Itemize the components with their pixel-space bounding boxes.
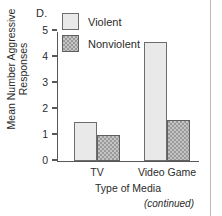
legend-item-nonviolent: Nonviolent	[62, 34, 140, 53]
panel-letter-label: D.	[36, 7, 47, 19]
continued-note: (continued)	[144, 198, 194, 209]
y-tick-label: 3	[42, 76, 48, 88]
y-tick-label: 5	[42, 24, 48, 36]
bar-tv-violent	[74, 122, 97, 161]
chart-legend: Violent Nonviolent	[62, 12, 140, 56]
y-tick-label: 2	[42, 102, 48, 114]
y-tick-label: 4	[42, 50, 48, 62]
legend-swatch-nonviolent-icon	[62, 35, 79, 52]
page-edge-rule	[210, 0, 211, 216]
bar-video-game-violent	[144, 42, 167, 160]
legend-label-violent: Violent	[88, 16, 121, 28]
y-tick-3: 3	[52, 81, 57, 82]
y-tick-label: 0	[42, 154, 48, 166]
legend-swatch-violent-icon	[62, 13, 79, 30]
legend-item-violent: Violent	[62, 12, 140, 31]
bar-tv-nonviolent	[97, 135, 120, 161]
y-tick-1: 1	[52, 133, 57, 134]
y-axis-title: Mean Number Aggressive Responses	[1, 0, 35, 139]
y-tick-2: 2	[52, 107, 57, 108]
x-axis-title: Type of Media	[57, 182, 199, 194]
legend-label-nonviolent: Nonviolent	[88, 38, 140, 50]
y-axis-title-line-2: Responses	[18, 43, 30, 96]
y-axis-line	[57, 32, 58, 162]
y-tick-0: 0	[52, 159, 57, 160]
bar-chart-figure: D. Mean Number Aggressive Responses 0123…	[0, 0, 210, 216]
y-tick-4: 4	[52, 55, 57, 56]
y-tick-5: 5	[52, 29, 57, 30]
y-tick-label: 1	[42, 128, 48, 140]
x-category-label-video-game: Video Game	[117, 166, 217, 178]
x-axis-line	[57, 161, 199, 162]
bar-video-game-nonviolent	[167, 120, 190, 160]
